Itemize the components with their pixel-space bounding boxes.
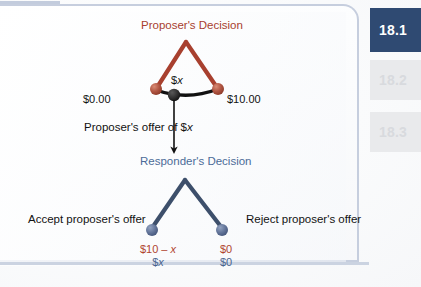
tab-18-2-label: 18.2 — [379, 72, 407, 88]
responder-node-reject — [216, 224, 228, 236]
reject-payoff-proposer: $0 — [191, 243, 261, 256]
accept-payoffs: $10 – x $x — [123, 243, 193, 269]
responder-node-accept — [146, 224, 158, 236]
reject-payoff-responder: $0 — [191, 256, 261, 269]
reject-branch-label: Reject proposer's offer — [246, 214, 361, 226]
responder-decision-title: Responder's Decision — [140, 156, 252, 168]
tab-18-1-label: 18.1 — [379, 22, 407, 38]
proposer-node-zero — [150, 83, 162, 95]
proposer-node-ten — [212, 83, 224, 95]
offer-continuum-curve — [156, 89, 218, 95]
reject-payoffs: $0 $0 — [191, 243, 261, 269]
offer-node-label: $x — [171, 75, 183, 86]
proposer-max-payoff-label: $10.00 — [227, 94, 261, 105]
tab-18-2[interactable]: 18.2 — [370, 60, 421, 100]
accept-payoff-proposer: $10 – x — [123, 243, 193, 256]
responder-branches — [152, 180, 222, 228]
game-tree-diagram: Proposer's Decision $x $0.00 $10.00 Prop… — [0, 0, 369, 287]
offer-arrow-label: Proposer's offer of $x — [84, 122, 193, 134]
chosen-offer-node — [168, 89, 180, 101]
tab-18-3-label: 18.3 — [379, 124, 407, 140]
accept-branch-label: Accept proposer's offer — [28, 214, 146, 226]
proposer-triangle-legs — [156, 42, 218, 89]
section-tab-rail: 18.1 18.2 18.3 — [367, 0, 421, 287]
accept-payoff-responder: $x — [123, 256, 193, 269]
proposer-min-payoff-label: $0.00 — [83, 94, 111, 105]
tab-18-1[interactable]: 18.1 — [370, 8, 421, 52]
tab-18-3[interactable]: 18.3 — [370, 112, 421, 152]
figure-screenshot: Proposer's Decision $x $0.00 $10.00 Prop… — [0, 0, 421, 287]
proposer-decision-title: Proposer's Decision — [141, 20, 243, 32]
